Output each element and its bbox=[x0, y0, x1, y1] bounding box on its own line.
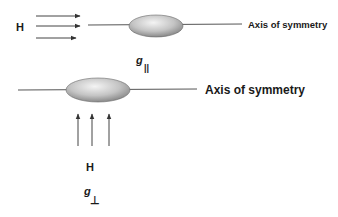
parallel-configuration: H Axis of symmetry g || bbox=[16, 15, 328, 73]
molecule-ellipse-icon bbox=[129, 15, 183, 37]
axis-label-top: Axis of symmetry bbox=[248, 19, 328, 30]
perpendicular-configuration: Axis of symmetry H g ⊥ bbox=[18, 78, 305, 206]
field-label-h-perpendicular: H bbox=[86, 161, 94, 173]
field-label-h-parallel: H bbox=[16, 21, 24, 33]
g-parallel-symbol: g bbox=[135, 54, 143, 66]
molecule-ellipse-icon bbox=[66, 78, 130, 102]
g-perpendicular-subscript: ⊥ bbox=[90, 194, 100, 206]
g-parallel-subscript: || bbox=[144, 63, 149, 73]
axis-label-bottom: Axis of symmetry bbox=[205, 83, 305, 97]
diagram-canvas: H Axis of symmetry g || Axis of symmetry… bbox=[0, 0, 338, 217]
